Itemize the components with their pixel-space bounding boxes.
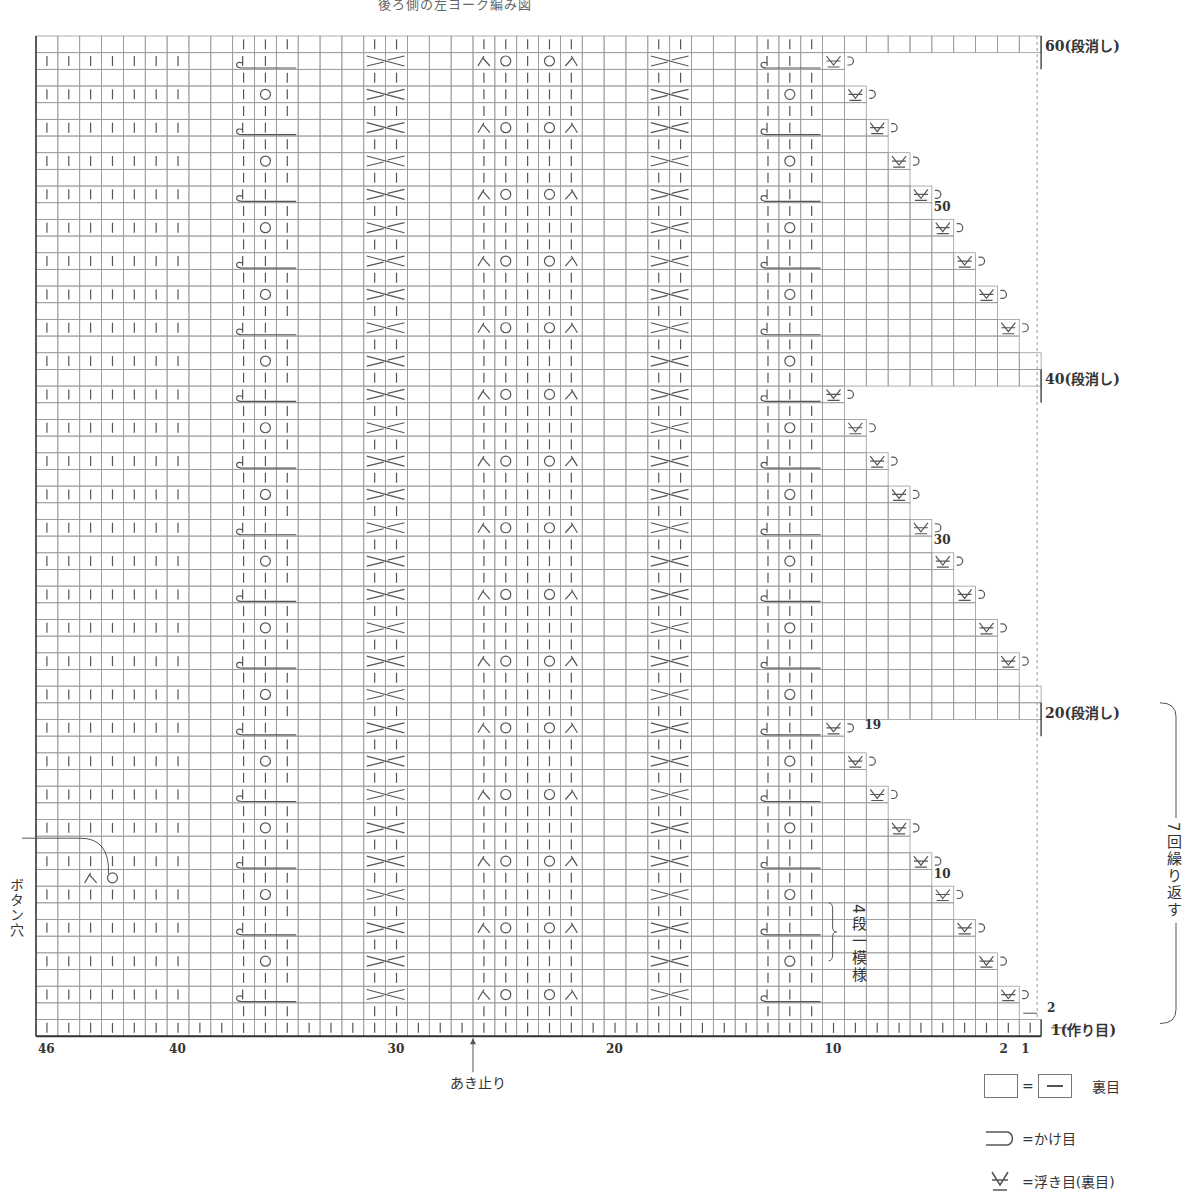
column-label: 46 xyxy=(38,1042,55,1056)
purl-dash-icon xyxy=(1038,1074,1072,1098)
slip-stitch-icon xyxy=(984,1168,1022,1194)
row-label: 40(段消し) xyxy=(1045,368,1120,388)
row-label: 19 xyxy=(864,718,881,732)
column-label: 10 xyxy=(825,1042,842,1056)
repeat-label: 7回繰り返す xyxy=(1163,818,1184,923)
legend-slip-stitch-label: =浮き目(裏目) xyxy=(1022,1171,1115,1191)
legend-purl: = 裏目 xyxy=(984,1074,1120,1098)
opening-end-label: あき止り xyxy=(450,1072,506,1092)
column-label: 1 xyxy=(1021,1042,1029,1056)
equals-sign: = xyxy=(1022,1078,1034,1094)
chart-heading: 後ろ側の左ヨーク編み図 xyxy=(378,0,532,13)
row-label: 60(段消し) xyxy=(1045,35,1120,55)
row-label: 20(段消し) xyxy=(1045,702,1120,722)
legend-purl-label: 裏目 xyxy=(1092,1076,1120,1096)
button-hole-label: ボタン穴 xyxy=(6,878,26,938)
legend-yarn-over: =かけ目 xyxy=(984,1128,1076,1148)
four-row-pattern-label: 4段一模様 xyxy=(848,904,869,984)
column-label: 30 xyxy=(388,1042,405,1056)
row-label: 2 xyxy=(1047,1001,1055,1015)
row-label: 10 xyxy=(934,867,951,881)
legend-slip-stitch: =浮き目(裏目) xyxy=(984,1168,1115,1194)
column-label: 2 xyxy=(999,1042,1007,1056)
knitting-chart xyxy=(0,0,1197,1203)
column-label: 40 xyxy=(169,1042,186,1056)
legend-yarn-over-label: =かけ目 xyxy=(1022,1128,1076,1148)
row-label: 30 xyxy=(934,533,951,547)
blank-box-icon xyxy=(984,1074,1018,1098)
column-label: 20 xyxy=(606,1042,623,1056)
row-label: 50 xyxy=(934,200,951,214)
yarn-over-icon xyxy=(984,1128,1022,1148)
chart-grid xyxy=(0,0,1197,1203)
row-label: 1(作り目) xyxy=(1051,1019,1116,1039)
